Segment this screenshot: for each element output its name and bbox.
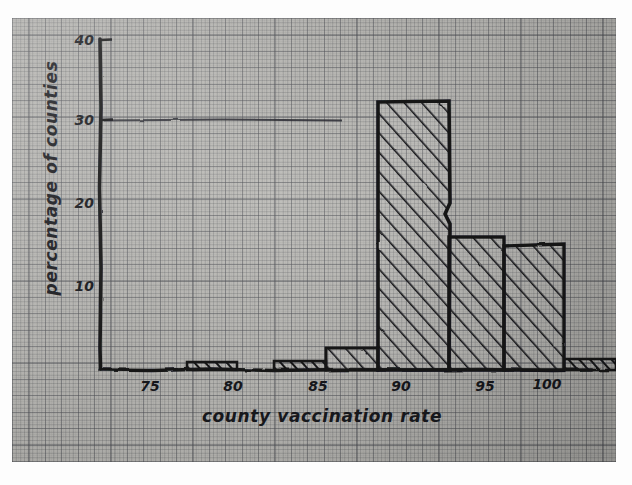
x-tick-label-85: 85 [308, 378, 327, 394]
x-tick-label-100: 100 [532, 376, 561, 392]
x-tick-label-80: 80 [223, 378, 242, 394]
y-tick-label-10: 10 [75, 278, 94, 294]
chart-ink-layer [12, 18, 616, 462]
bar-87.5-90 [378, 101, 450, 370]
screenshot-root: 40 30 20 10 75 80 85 90 95 100 percentag… [0, 0, 632, 485]
bar-82.5-85 [274, 361, 326, 370]
bar-95-97.5 [564, 359, 616, 370]
y-axis-line [100, 39, 102, 370]
bar-85-87.5 [326, 348, 378, 370]
y-tick-label-30: 30 [75, 112, 94, 128]
y-tick-label-20: 20 [75, 195, 94, 211]
x-axis-title: county vaccination rate [162, 406, 482, 426]
bar-92.5-95 [504, 244, 564, 370]
x-tick-label-75: 75 [140, 378, 159, 394]
y-tick-label-40: 40 [75, 32, 94, 48]
y-axis-title: percentage of counties [41, 53, 61, 303]
bars-group [187, 101, 616, 370]
y-gridline-30 [104, 120, 342, 121]
y-tick-30 [100, 120, 113, 121]
x-tick-label-90: 90 [391, 378, 410, 394]
y-tick-40 [100, 40, 112, 41]
plot-area: 40 30 20 10 75 80 85 90 95 100 percentag… [12, 18, 616, 462]
bar-77.5-80 [187, 362, 237, 370]
bar-90-92.5 [449, 237, 504, 370]
x-tick-label-95: 95 [475, 378, 494, 394]
graph-paper-photo: 40 30 20 10 75 80 85 90 95 100 percentag… [12, 18, 616, 462]
